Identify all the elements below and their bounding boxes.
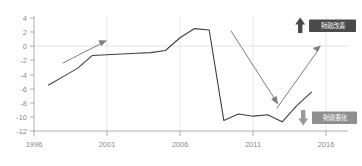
improvement-label-text: 財政改善 xyxy=(321,21,346,30)
down-arrow-icon xyxy=(298,110,308,126)
x-axis-labels: 1996 2001 2006 2011 2016 xyxy=(26,140,335,149)
y-label--2: -2 xyxy=(20,56,27,65)
y-axis-ticks xyxy=(30,18,34,131)
up-arrow-icon xyxy=(295,18,305,34)
trend-arrow-early-rise xyxy=(63,40,107,63)
y-label-4: 4 xyxy=(23,14,27,23)
y-label-2: 2 xyxy=(23,28,27,37)
chart-svg: 4 2 0 -2 -4 -6 -8 -10 -12 1996 2001 2006… xyxy=(0,0,362,166)
fiscal-balance-chart: 4 2 0 -2 -4 -6 -8 -10 -12 1996 2001 2006… xyxy=(0,0,362,166)
y-label--4: -4 xyxy=(20,71,27,80)
y-axis-labels: 4 2 0 -2 -4 -6 -8 -10 -12 xyxy=(16,14,27,136)
y-label--10: -10 xyxy=(16,113,27,122)
x-axis-ticks xyxy=(34,131,326,136)
x-label-1996: 1996 xyxy=(26,140,43,149)
deterioration-label-text: 財政悪化 xyxy=(323,113,348,122)
y-label--8: -8 xyxy=(20,99,27,108)
x-label-2016: 2016 xyxy=(318,140,335,149)
y-label-0: 0 xyxy=(23,42,27,51)
y-label--12: -12 xyxy=(16,127,27,136)
annotation-fiscal-improvement: 財政改善 xyxy=(295,18,356,34)
x-label-2001: 2001 xyxy=(99,140,116,149)
trend-arrow-crash xyxy=(231,31,278,105)
trend-arrow-recovery xyxy=(277,46,321,109)
y-label--6: -6 xyxy=(20,85,27,94)
x-label-2011: 2011 xyxy=(245,140,261,149)
x-label-2006: 2006 xyxy=(172,140,189,149)
annotation-fiscal-deterioration: 財政悪化 xyxy=(298,110,357,126)
